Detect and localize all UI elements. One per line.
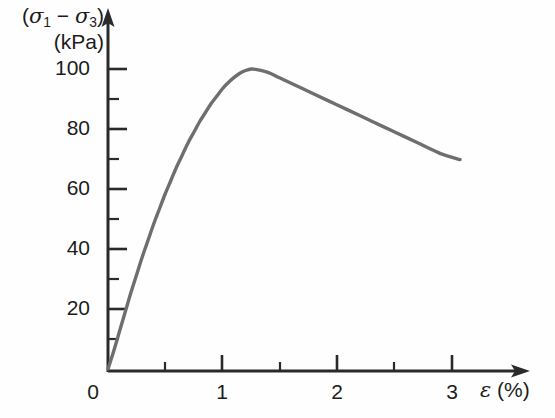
epsilon-symbol: ε xyxy=(480,378,491,402)
x-tick-label-1: 1 xyxy=(202,380,242,404)
y-tick-label-40: 40 xyxy=(8,236,90,260)
x-tick-label-0: 0 xyxy=(73,380,113,404)
stress-strain-chart-figure: (σ1 − σ3) (kPa) ε (%) 20 40 60 80 100 0 … xyxy=(0,0,555,418)
y-axis-major-ticks xyxy=(108,69,127,309)
y-axis-title-line1: (σ1 − σ3) xyxy=(0,4,104,30)
y-tick-label-100: 100 xyxy=(8,56,90,80)
y-tick-label-60: 60 xyxy=(8,176,90,200)
x-axis-title: ε (%) xyxy=(480,378,530,403)
y-axis-title-line2: (kPa) xyxy=(0,30,104,54)
stress-strain-curve xyxy=(108,69,460,369)
y-tick-label-80: 80 xyxy=(8,116,90,140)
x-axis-major-ticks xyxy=(222,355,452,371)
y-axis-minor-ticks xyxy=(108,99,119,339)
x-axis xyxy=(108,365,530,378)
y-tick-label-20: 20 xyxy=(8,296,90,320)
x-tick-label-2: 2 xyxy=(317,380,357,404)
x-tick-label-3: 3 xyxy=(432,380,472,404)
y-axis-title: (σ1 − σ3) (kPa) xyxy=(0,4,104,54)
